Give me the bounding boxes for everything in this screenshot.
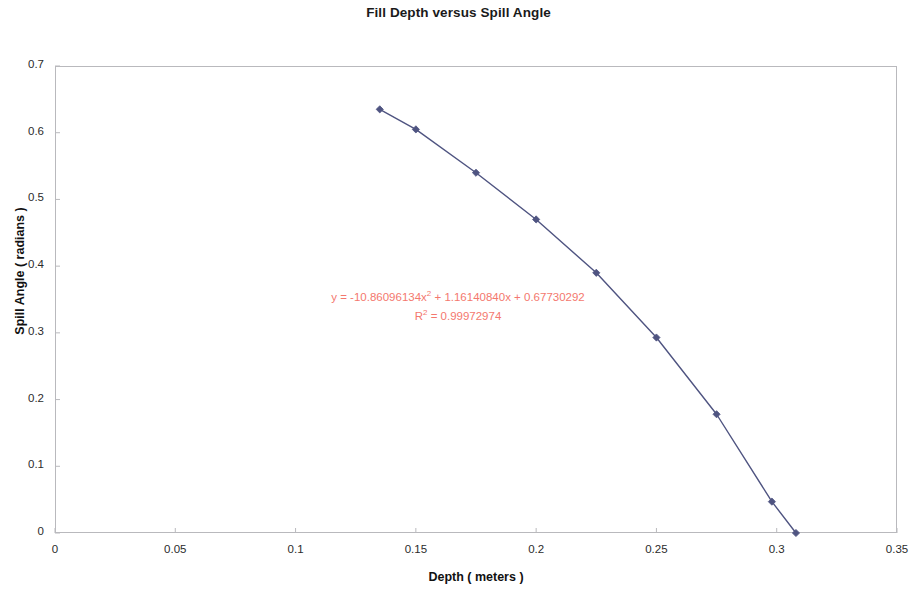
r2-prefix: R (415, 310, 423, 322)
x-axis-tick-label: 0.25 (616, 543, 696, 555)
y-axis-tick-label: 0.6 (0, 125, 44, 137)
chart-container: Fill Depth versus Spill Angle Spill Angl… (0, 0, 917, 592)
y-axis-tick-label: 0 (0, 525, 44, 537)
x-axis-tick-label: 0.1 (256, 543, 336, 555)
y-axis-tick-label: 0.3 (0, 325, 44, 337)
r-squared-value: R2 = 0.99972974 (298, 307, 618, 326)
x-axis-title: Depth ( meters ) (55, 570, 897, 584)
y-axis-tick-label: 0.5 (0, 191, 44, 203)
x-axis-tick-label: 0.2 (496, 543, 576, 555)
r2-suffix: = 0.99972974 (427, 310, 501, 322)
trendline-equation: y = -10.86096134x2 + 1.16140840x + 0.677… (298, 288, 618, 307)
y-axis-tick-label: 0.7 (0, 58, 44, 70)
y-axis-tick-label: 0.2 (0, 392, 44, 404)
trendline-annotation: y = -10.86096134x2 + 1.16140840x + 0.677… (298, 288, 618, 326)
x-axis-tick-label: 0.05 (135, 543, 215, 555)
equation-suffix: + 1.16140840x + 0.67730292 (431, 291, 584, 303)
y-axis-tick-label: 0.4 (0, 258, 44, 270)
x-axis-tick-label: 0.35 (857, 543, 917, 555)
chart-title: Fill Depth versus Spill Angle (0, 5, 917, 20)
x-axis-tick-label: 0.3 (737, 543, 817, 555)
equation-prefix: y = -10.86096134x (331, 291, 427, 303)
x-axis-tick-label: 0.15 (376, 543, 456, 555)
x-axis-tick-label: 0 (15, 543, 95, 555)
y-axis-tick-label: 0.1 (0, 458, 44, 470)
